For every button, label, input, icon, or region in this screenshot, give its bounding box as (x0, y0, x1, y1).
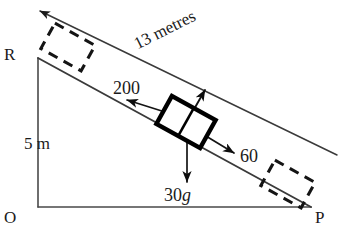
height-label-5m: 5 m (24, 135, 50, 152)
vertex-label-o: O (4, 209, 16, 226)
force-label-60: 60 (240, 147, 258, 165)
force-label-weight: 30g (164, 186, 191, 204)
weight-magnitude: 30 (164, 185, 182, 205)
vertex-label-p: P (315, 209, 324, 226)
inclined-plane-figure: R O P 5 m 13 metres 200 60 30g (0, 0, 345, 234)
block-on-slope (156, 96, 215, 148)
force-label-200: 200 (113, 79, 140, 97)
vertex-label-r: R (4, 46, 15, 63)
weight-gravity-symbol: g (182, 185, 191, 205)
